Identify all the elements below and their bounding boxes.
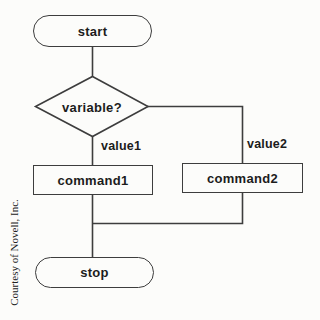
start-label: start <box>78 24 108 39</box>
connector-decision-to-command2 <box>147 107 243 165</box>
flowchart-canvas: start variable? value1 value2 command1 c… <box>0 0 320 320</box>
process-command2: command2 <box>182 163 303 193</box>
stop-terminator: stop <box>35 257 154 288</box>
branch-label-value2: value2 <box>247 137 287 151</box>
start-terminator: start <box>33 15 152 47</box>
command1-label: command1 <box>57 173 128 188</box>
process-command1: command1 <box>33 165 153 195</box>
stop-label: stop <box>80 265 109 280</box>
decision-label: variable? <box>62 100 122 115</box>
credit-text: Courtesy of Novell, Inc. <box>7 193 22 313</box>
command2-label: command2 <box>207 171 278 186</box>
decision-node: variable? <box>40 99 144 115</box>
connector-command2-to-merge <box>93 192 243 224</box>
branch-label-value1: value1 <box>101 139 141 153</box>
